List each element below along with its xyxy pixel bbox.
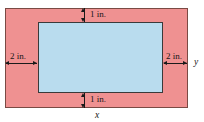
right-margin-arrowhead-left-icon [163, 61, 167, 65]
bottom-margin-label: 1 in. [90, 95, 106, 104]
rectangle-margin-diagram: 1 in. 1 in. 2 in. 2 in. x y [0, 0, 204, 122]
width-axis-label: x [95, 111, 99, 121]
bottom-margin-arrowhead-up-icon [81, 93, 85, 97]
left-margin-arrowhead-right-icon [33, 61, 37, 65]
left-margin-arrowhead-left-icon [5, 61, 9, 65]
right-margin-arrowhead-right-icon [183, 61, 187, 65]
bottom-margin-arrowhead-down-icon [81, 104, 85, 108]
top-margin-arrowhead-down-icon [81, 18, 85, 22]
inner-printed-rectangle [38, 22, 163, 93]
height-axis-label: y [194, 58, 198, 68]
top-margin-label: 1 in. [90, 10, 106, 19]
top-margin-arrowhead-up-icon [81, 8, 85, 12]
right-margin-label: 2 in. [166, 52, 182, 61]
left-margin-label: 2 in. [10, 52, 26, 61]
